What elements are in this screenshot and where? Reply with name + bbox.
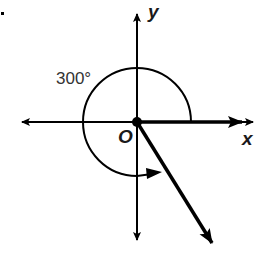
x-axis-label: x — [242, 129, 253, 148]
origin-label: O — [118, 127, 133, 146]
origin-point — [132, 117, 142, 127]
angle-label: 300° — [56, 70, 91, 87]
rotation-arrowhead-icon — [146, 168, 162, 179]
stray-mark — [1, 12, 4, 15]
terminal-side-ray — [137, 122, 212, 243]
y-axis-label: y — [148, 2, 159, 21]
